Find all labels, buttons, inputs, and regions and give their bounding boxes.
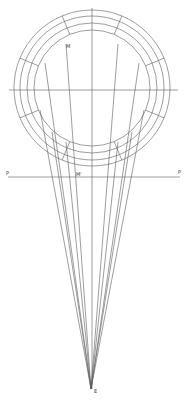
label-p-right: P (178, 170, 181, 175)
sight-line (52, 132, 91, 389)
radial-line (114, 16, 122, 34)
perspective-diagram (0, 0, 190, 402)
radial-line (62, 16, 70, 34)
sight-line (91, 142, 118, 389)
sight-line (91, 63, 139, 389)
radial-line (20, 58, 38, 66)
sight-line (91, 44, 118, 389)
sight-line (45, 63, 91, 389)
label-p-left: P (6, 171, 9, 176)
sight-line (66, 44, 91, 389)
label-m-prime: M' (76, 172, 82, 177)
radial-line (20, 110, 38, 118)
sight-line (66, 142, 91, 389)
radial-line (146, 58, 164, 66)
radial-line (146, 110, 164, 118)
sight-line (91, 110, 144, 389)
sight-line (91, 132, 132, 389)
label-e: E (94, 389, 97, 394)
label-m: M (66, 44, 70, 49)
